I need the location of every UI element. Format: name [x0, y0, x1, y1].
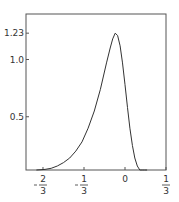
plot-frame	[26, 14, 166, 170]
x-tick-denominator: 3	[81, 186, 87, 196]
x-axis-ticks: 2313013	[34, 167, 170, 196]
x-tick-numerator: 1	[81, 174, 87, 184]
x-tick-denominator: 3	[40, 186, 46, 196]
x-tick-denominator: 3	[163, 186, 169, 196]
density-curve	[36, 33, 147, 170]
chart: 0.51.01.23 2313013	[0, 0, 179, 202]
y-tick-label: 0.5	[10, 112, 24, 122]
x-tick-numerator: 1	[163, 174, 169, 184]
x-tick-numerator: 2	[40, 174, 46, 184]
y-tick-label: 1.23	[4, 28, 24, 38]
y-tick-label: 1.0	[10, 55, 25, 65]
x-tick-label: 0	[122, 174, 128, 184]
y-axis-ticks: 0.51.01.23	[4, 28, 29, 122]
